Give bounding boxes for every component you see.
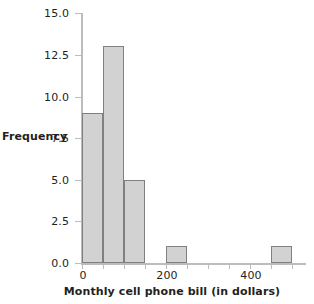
y-tick-label-0: 0.0: [29, 258, 69, 269]
x-axis-spine: [81, 263, 306, 265]
y-tick-mark-7_5: [75, 138, 81, 139]
plot-area: 15.0 12.5 10.0 7.5 5.0 2.5 0.0: [0, 0, 314, 304]
x-tick-mark-250: [187, 264, 188, 269]
x-tick-label-400: 400: [231, 270, 271, 282]
histogram-bar: [124, 180, 145, 263]
histogram-figure: 15.0 12.5 10.0 7.5 5.0 2.5 0.0: [0, 0, 314, 304]
histogram-bar: [166, 246, 187, 263]
y-tick-label-10: 10.0: [29, 92, 69, 103]
x-tick-mark-300: [208, 264, 209, 269]
x-tick-label-0: 0: [63, 270, 103, 282]
histogram-bar: [271, 246, 292, 263]
y-tick-label-5: 5.0: [29, 175, 69, 186]
y-tick-mark-2_5: [75, 221, 81, 222]
y-tick-mark-15: [75, 13, 81, 14]
x-tick-label-200: 200: [147, 270, 187, 282]
y-tick-mark-0: [75, 263, 81, 264]
x-tick-mark-500: [292, 264, 293, 269]
x-tick-mark-100: [124, 264, 125, 269]
histogram-bar: [103, 46, 124, 263]
x-tick-mark-450: [271, 264, 272, 269]
y-tick-label-2_5: 2.5: [29, 216, 69, 227]
y-tick-mark-10: [75, 97, 81, 98]
x-tick-mark-50: [103, 264, 104, 269]
x-axis-label: Monthly cell phone bill (in dollars): [0, 286, 314, 298]
y-tick-mark-12_5: [75, 55, 81, 56]
y-tick-mark-5: [75, 180, 81, 181]
x-tick-mark-150: [145, 264, 146, 269]
x-tick-mark-350: [229, 264, 230, 269]
y-tick-label-12_5: 12.5: [29, 50, 69, 61]
histogram-bar: [82, 113, 103, 263]
y-tick-label-15: 15.0: [29, 8, 69, 19]
y-axis-label: Frequency: [2, 131, 67, 143]
